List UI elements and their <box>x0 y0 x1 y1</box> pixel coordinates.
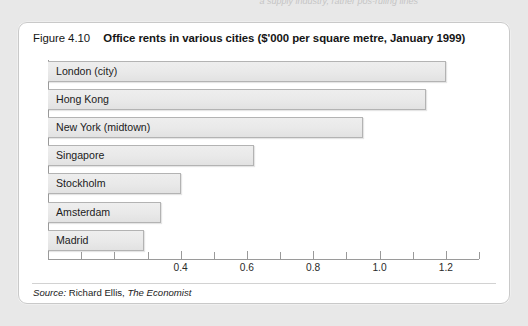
source-divider <box>32 283 496 284</box>
bar-category-label: Amsterdam <box>56 202 110 223</box>
bar-category-label: Stockholm <box>56 173 105 194</box>
x-tick-minor <box>479 252 480 259</box>
chart-plot-area: 0.40.60.81.01.2 London (city)Hong KongNe… <box>48 63 479 255</box>
x-tick-minor <box>148 252 149 259</box>
x-tick-label: 1.2 <box>439 262 453 273</box>
x-tick-major <box>313 251 314 259</box>
page-cutoff-text: a supply industry, rather pos-ruling lin… <box>0 0 528 8</box>
x-tick-minor <box>81 252 82 259</box>
x-tick-label: 1.0 <box>372 262 386 273</box>
x-tick-major <box>181 251 182 259</box>
bar-category-label: Madrid <box>56 230 88 251</box>
x-tick-minor <box>214 252 215 259</box>
x-tick-minor <box>280 252 281 259</box>
source-author: Richard Ellis, <box>69 287 125 298</box>
x-tick-minor <box>413 252 414 259</box>
bar-row: New York (midtown) <box>48 117 479 138</box>
figure-title: Office rents in various cities ($'000 pe… <box>103 32 465 44</box>
bar-row: Hong Kong <box>48 89 479 110</box>
bar-row: Singapore <box>48 145 479 166</box>
source-note: Source: Richard Ellis, The Economist <box>33 287 191 298</box>
bar-row: London (city) <box>48 61 479 82</box>
bar-row: Stockholm <box>48 173 479 194</box>
bar-category-label: Singapore <box>56 145 104 166</box>
bar-row: Madrid <box>48 230 479 251</box>
x-axis-line <box>48 259 479 260</box>
bar-category-label: Hong Kong <box>56 89 109 110</box>
bar-row: Amsterdam <box>48 202 479 223</box>
figure-caption: Figure 4.10 Office rents in various citi… <box>33 32 503 44</box>
figure-container: Figure 4.10 Office rents in various citi… <box>18 22 510 304</box>
source-prefix: Source: <box>33 287 66 298</box>
x-tick-label: 0.6 <box>240 262 254 273</box>
x-tick-major <box>446 251 447 259</box>
x-tick-major <box>380 251 381 259</box>
bar-category-label: New York (midtown) <box>56 117 150 138</box>
x-tick-label: 0.8 <box>306 262 320 273</box>
source-publication: The Economist <box>127 287 191 298</box>
x-tick-minor <box>346 252 347 259</box>
figure-number: Figure 4.10 <box>33 32 90 44</box>
x-tick-minor <box>114 252 115 259</box>
x-tick-major <box>247 251 248 259</box>
bar-category-label: London (city) <box>56 61 117 82</box>
x-tick-label: 0.4 <box>174 262 188 273</box>
